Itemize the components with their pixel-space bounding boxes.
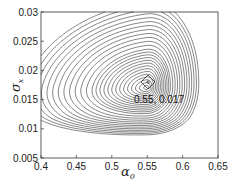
optimum-annotation: 0.55, 0.017 bbox=[134, 94, 184, 105]
y-tick-label: 0.025 bbox=[13, 36, 38, 47]
x-tick-label: 0.6 bbox=[176, 161, 190, 172]
y-tick-label: 0.03 bbox=[19, 7, 39, 18]
x-tick-label: 0.5 bbox=[105, 161, 119, 172]
y-axis-label: σx bbox=[8, 78, 25, 92]
y-tick-label: 0.01 bbox=[19, 123, 39, 134]
x-tick-label: 0.55 bbox=[137, 161, 157, 172]
contour-lines bbox=[41, 12, 199, 135]
x-tick-label: 0.45 bbox=[67, 161, 87, 172]
contour-chart: 0.40.450.50.550.60.65 0.0050.010.0150.02… bbox=[0, 0, 237, 187]
x-axis-ticks: 0.40.450.50.550.60.65 bbox=[34, 155, 228, 172]
x-axis-label: α0 bbox=[121, 164, 135, 181]
contour-level bbox=[47, 18, 189, 129]
y-tick-label: 0.02 bbox=[19, 65, 39, 76]
y-tick-label: 0.015 bbox=[13, 94, 38, 105]
x-tick-label: 0.65 bbox=[208, 161, 228, 172]
y-tick-label: 0.005 bbox=[13, 153, 38, 164]
